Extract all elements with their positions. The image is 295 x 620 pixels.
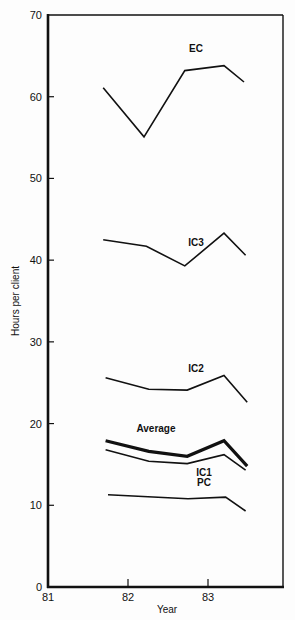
series-label-ic1: IC1 [196,467,212,478]
y-tick-label: 60 [30,91,42,103]
series-line-ec [103,66,244,137]
series-line-ic1 [106,450,246,470]
y-tick-label: 70 [30,9,42,21]
y-axis-title: Hours per client [10,266,21,336]
plot-frame [47,14,284,588]
x-axis-title: Year [157,604,178,615]
y-tick-label: 50 [30,172,42,184]
line-chart: 010203040506070 818283 ECIC3IC2AverageIC… [0,0,295,620]
x-tick-label: 81 [42,591,54,603]
x-axis-ticks: 818283 [42,579,214,603]
series-label-ic2: IC2 [188,363,204,374]
y-tick-label: 10 [30,499,42,511]
y-tick-label: 40 [30,254,42,266]
x-tick-label: 82 [122,591,134,603]
series-label-average: Average [136,423,176,434]
y-tick-label: 20 [30,418,42,430]
x-tick-label: 83 [202,591,214,603]
series-label-ic3: IC3 [188,237,204,248]
series-lines: ECIC3IC2AverageIC1PC [103,43,247,511]
series-line-ic3 [103,233,245,266]
y-axis-ticks: 010203040506070 [30,9,54,593]
series-line-ic2 [106,375,248,402]
series-label-pc: PC [197,477,211,488]
y-tick-label: 30 [30,336,42,348]
series-label-ec: EC [189,43,203,54]
series-line-pc [108,495,246,511]
